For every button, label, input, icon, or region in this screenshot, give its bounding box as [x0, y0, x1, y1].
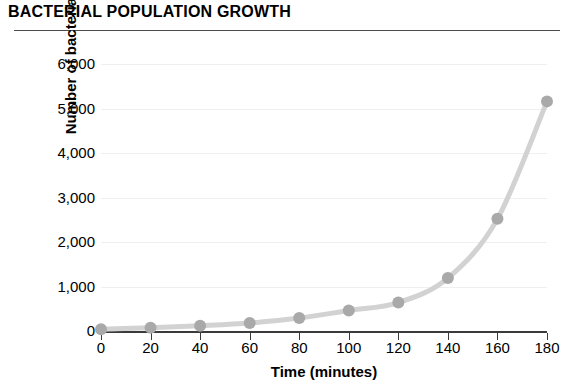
data-point [95, 323, 107, 335]
data-point [293, 312, 305, 324]
series-markers [95, 95, 553, 335]
chart-figure: BACTERIAL POPULATION GROWTH Number of ba… [0, 0, 570, 385]
data-point [343, 305, 355, 317]
data-point [442, 272, 454, 284]
data-point [194, 320, 206, 332]
data-point [244, 317, 256, 329]
data-series-layer [0, 0, 570, 385]
data-point [491, 213, 503, 225]
data-point [392, 297, 404, 309]
data-point [541, 95, 553, 107]
data-point [145, 322, 157, 334]
series-line [101, 101, 547, 329]
